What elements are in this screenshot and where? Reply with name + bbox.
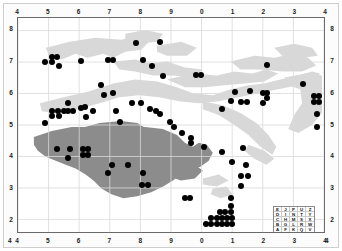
data-point — [83, 114, 89, 120]
data-point — [145, 182, 151, 188]
data-point — [264, 62, 270, 68]
axis-tick-bottom: 6 — [73, 238, 85, 245]
data-point — [49, 59, 55, 65]
data-point — [260, 100, 266, 106]
axis-tick-bottom: 8 — [134, 238, 146, 245]
data-point — [238, 183, 244, 189]
data-point — [157, 39, 163, 45]
data-point — [316, 99, 322, 105]
axis-tick-top: 1 — [227, 9, 239, 16]
axis-tick-right: 3 — [327, 185, 337, 192]
data-point — [179, 130, 185, 136]
data-points-layer — [18, 18, 324, 232]
legend-cell: K — [290, 227, 298, 232]
axis-tick-bottom: 1 — [227, 238, 239, 245]
data-point — [140, 170, 146, 176]
legend-grid: EJPUZDINTYCHMSXBGLRWAFKQV — [274, 207, 314, 232]
data-point — [147, 106, 153, 112]
data-point — [300, 81, 306, 87]
data-point — [314, 124, 320, 130]
data-point — [109, 162, 115, 168]
axis-tick-top: 4 — [319, 9, 331, 16]
data-point — [54, 54, 60, 60]
data-point — [240, 145, 246, 151]
data-point — [171, 124, 177, 130]
plot-area: EJPUZDINTYCHMSXBGLRWAFKQV — [17, 17, 325, 233]
axis-tick-top: 9 — [165, 9, 177, 16]
corner-label-bottom-right: 4 — [325, 238, 329, 245]
legend-cell: F — [282, 227, 290, 232]
data-point — [85, 152, 91, 158]
data-point — [90, 108, 96, 114]
axis-tick-bottom: 9 — [165, 238, 177, 245]
axis-tick-right: 6 — [327, 90, 337, 97]
data-point — [314, 111, 320, 117]
axis-tick-left: 7 — [6, 58, 16, 65]
axis-tick-top: 7 — [103, 9, 115, 16]
data-point — [149, 63, 155, 69]
data-point — [229, 221, 235, 227]
data-point — [157, 111, 163, 117]
axis-tick-left: 5 — [6, 122, 16, 129]
legend-cell: V — [306, 227, 314, 232]
axis-tick-bottom: 0 — [196, 238, 208, 245]
corner-label-bottom-left: 4 — [8, 238, 12, 245]
data-point — [201, 144, 207, 150]
data-point — [247, 88, 253, 94]
axis-tick-right: 8 — [327, 26, 337, 33]
data-point — [228, 203, 234, 209]
data-point — [219, 149, 225, 155]
data-point — [65, 100, 71, 106]
data-point — [85, 146, 91, 152]
data-point — [113, 108, 119, 114]
data-point — [117, 119, 123, 125]
axis-tick-bottom: 7 — [103, 238, 115, 245]
legend-cell: Q — [298, 227, 306, 232]
data-point — [228, 98, 234, 104]
axis-tick-bottom: 4 — [11, 238, 23, 245]
axis-tick-top: 3 — [288, 9, 300, 16]
data-point — [56, 113, 62, 119]
axis-tick-left: 3 — [6, 185, 16, 192]
data-point — [229, 159, 235, 165]
data-point — [56, 63, 62, 69]
figure-root: 45678901234 45678901234 8765432 8765432 … — [0, 0, 342, 251]
data-point — [78, 58, 84, 64]
axis-tick-right: 4 — [327, 153, 337, 160]
data-point — [140, 57, 146, 63]
data-point — [125, 162, 131, 168]
axis-tick-bottom: 2 — [257, 238, 269, 245]
data-point — [133, 40, 139, 46]
data-point — [228, 195, 234, 201]
data-point — [138, 100, 144, 106]
axis-tick-top: 5 — [42, 9, 54, 16]
data-point — [78, 105, 84, 111]
axis-tick-left: 4 — [6, 153, 16, 160]
data-point — [98, 82, 104, 88]
data-point — [243, 162, 249, 168]
data-point — [244, 99, 250, 105]
data-point — [65, 155, 71, 161]
data-point — [139, 182, 145, 188]
data-point — [110, 90, 116, 96]
legend-cipher-square: EJPUZDINTYCHMSXBGLRWAFKQV — [273, 206, 315, 232]
data-point — [188, 140, 194, 146]
data-point — [232, 89, 238, 95]
data-point — [187, 195, 193, 201]
data-point — [105, 170, 111, 176]
data-point — [110, 57, 116, 63]
axis-tick-top: 2 — [257, 9, 269, 16]
axis-tick-top: 6 — [73, 9, 85, 16]
data-point — [54, 146, 60, 152]
axis-tick-left: 8 — [6, 26, 16, 33]
axis-tick-top: 4 — [11, 9, 23, 16]
legend-cell: A — [274, 227, 282, 232]
data-point — [238, 173, 244, 179]
axis-tick-left: 2 — [6, 217, 16, 224]
data-point — [67, 146, 73, 152]
data-point — [101, 92, 107, 98]
axis-tick-right: 7 — [327, 58, 337, 65]
data-point — [42, 120, 48, 126]
data-point — [129, 100, 135, 106]
axis-tick-bottom: 3 — [288, 238, 300, 245]
